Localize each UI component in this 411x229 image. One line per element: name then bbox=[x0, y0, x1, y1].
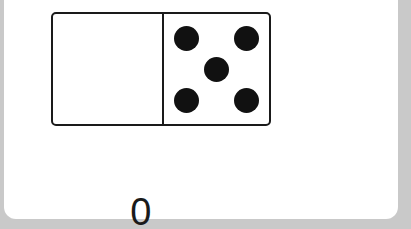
domino bbox=[51, 12, 271, 126]
addition-equation: 0 + 5 = bbox=[88, 148, 222, 229]
domino-right-half-five bbox=[164, 14, 269, 124]
worksheet-card: 0 + 5 = bbox=[4, 0, 398, 219]
pip-dot-icon bbox=[234, 26, 259, 51]
pip-dot-icon bbox=[204, 57, 229, 82]
pip-dot-icon bbox=[234, 88, 259, 113]
pip-dot-icon bbox=[174, 88, 199, 113]
pip-dot-icon bbox=[174, 26, 199, 51]
addend-1: 0 bbox=[130, 191, 151, 229]
domino-left-half-empty bbox=[53, 14, 164, 124]
